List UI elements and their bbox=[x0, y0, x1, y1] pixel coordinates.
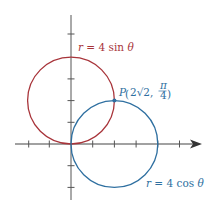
label-4-cos-theta: r = 4 cos θ bbox=[146, 177, 204, 189]
label-point-p: P ( 2√2, π 4 ) bbox=[118, 79, 171, 101]
svg-text:4: 4 bbox=[160, 89, 167, 101]
right-paren: ) bbox=[167, 88, 171, 100]
svg-text:2√2,: 2√2, bbox=[130, 86, 153, 98]
left-paren: ( bbox=[125, 88, 129, 100]
label-4-sin-theta: r = 4 sin θ bbox=[78, 41, 134, 53]
polar-diagram: r = 4 sin θ r = 4 cos θ P ( 2√2, π 4 ) bbox=[0, 0, 216, 216]
intersection-point-p bbox=[112, 99, 116, 103]
